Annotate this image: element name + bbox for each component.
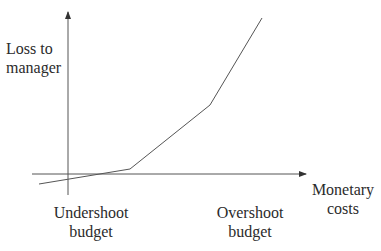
x-axis-label: Monetary costs xyxy=(305,180,381,218)
x-axis-label-line-1: Monetary xyxy=(305,180,381,199)
y-axis-label: Loss to manager xyxy=(6,39,61,77)
y-axis-label-line-2: manager xyxy=(6,58,61,77)
x-axis-label-line-2: costs xyxy=(305,199,381,218)
overshoot-budget-label: Overshoot budget xyxy=(200,203,300,241)
y-axis-label-line-1: Loss to xyxy=(6,39,61,58)
undershoot-label-line-1: Undershoot xyxy=(36,203,146,222)
loss-curve xyxy=(39,18,262,184)
undershoot-budget-label: Undershoot budget xyxy=(36,203,146,241)
undershoot-label-line-2: budget xyxy=(36,222,146,241)
overshoot-label-line-2: budget xyxy=(200,222,300,241)
overshoot-label-line-1: Overshoot xyxy=(200,203,300,222)
